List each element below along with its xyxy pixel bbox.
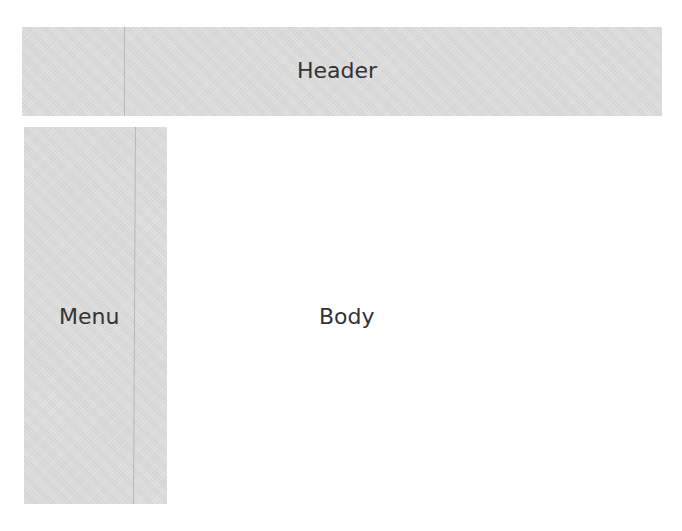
scan-artifact-line: [124, 27, 125, 116]
header-label: Header: [297, 60, 377, 82]
body-label: Body: [319, 306, 375, 328]
menu-label: Menu: [59, 306, 119, 328]
